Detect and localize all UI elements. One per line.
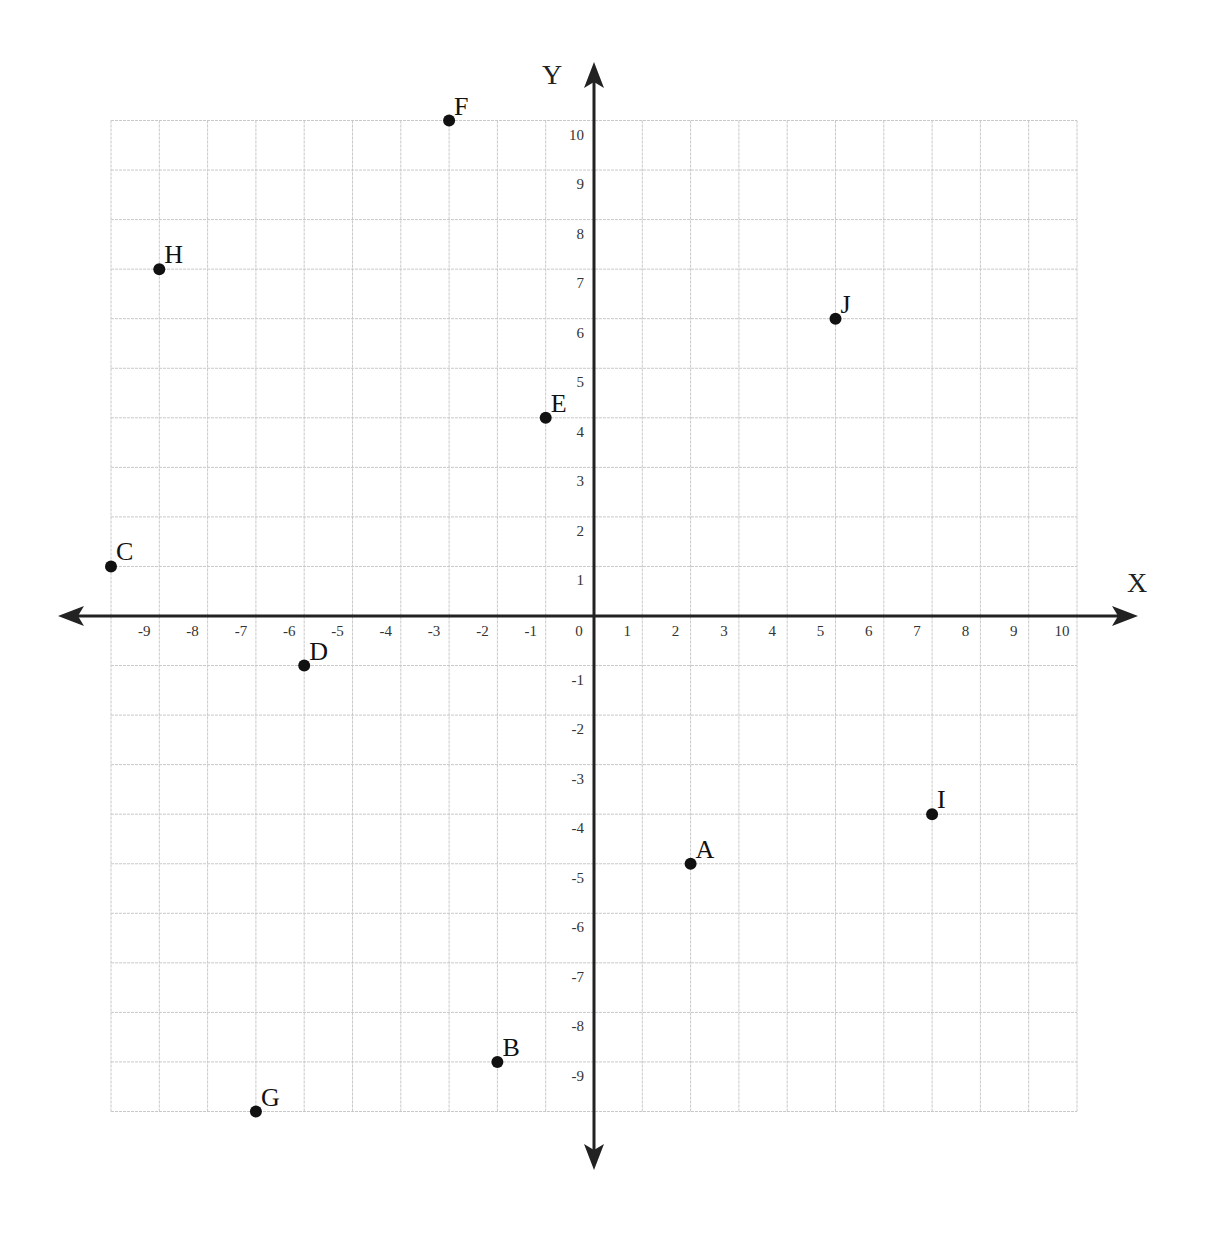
data-points: ABCDEFGHIJ	[105, 92, 946, 1118]
x-tick-label: 2	[672, 623, 680, 639]
x-tick-label: 3	[720, 623, 728, 639]
x-tick-label: -7	[235, 623, 248, 639]
y-axis-label: Y	[542, 59, 562, 90]
y-tick-label: -2	[572, 721, 585, 737]
y-tick-label: 7	[577, 275, 585, 291]
y-tick-label: 1	[577, 572, 585, 588]
y-tick-label: -4	[572, 820, 585, 836]
y-tick-label: 4	[577, 424, 585, 440]
coordinate-plane: X Y -9-8-7-6-5-4-3-2-1012345678910109876…	[0, 0, 1209, 1242]
y-tick-label: 9	[577, 176, 585, 192]
data-point-e: E	[540, 389, 567, 424]
data-point-a: A	[685, 835, 715, 870]
x-tick-label: -6	[283, 623, 296, 639]
x-tick-label: 7	[913, 623, 921, 639]
data-point-b: B	[491, 1033, 519, 1068]
x-tick-label: -3	[428, 623, 441, 639]
point-label: H	[164, 240, 183, 269]
point-label: D	[309, 637, 328, 666]
point-label: F	[454, 92, 468, 121]
y-tick-label: -3	[572, 771, 585, 787]
y-tick-label: -8	[572, 1018, 585, 1034]
y-tick-label: 10	[569, 127, 584, 143]
point-label: B	[502, 1033, 519, 1062]
tick-labels: -9-8-7-6-5-4-3-2-10123456789101098765432…	[138, 127, 1069, 1084]
data-point-i: I	[926, 785, 946, 820]
data-point-c: C	[105, 537, 133, 572]
x-tick-label: 1	[624, 623, 632, 639]
x-tick-label: -1	[524, 623, 537, 639]
point-label: I	[937, 785, 946, 814]
x-tick-label: 0	[575, 623, 583, 639]
x-tick-label: 6	[865, 623, 873, 639]
x-tick-label: 10	[1055, 623, 1070, 639]
point-label: G	[261, 1083, 280, 1112]
x-tick-label: -2	[476, 623, 489, 639]
point-label: J	[841, 290, 851, 319]
point-label: E	[551, 389, 567, 418]
x-tick-label: 8	[962, 623, 970, 639]
y-tick-label: 2	[577, 523, 585, 539]
data-point-g: G	[250, 1083, 280, 1118]
x-tick-label: 9	[1010, 623, 1018, 639]
x-axis-label: X	[1127, 567, 1147, 598]
y-tick-label: 6	[577, 325, 585, 341]
y-tick-label: -9	[572, 1068, 585, 1084]
y-tick-label: -5	[572, 870, 585, 886]
point-label: C	[116, 537, 133, 566]
data-point-j: J	[830, 290, 851, 325]
y-tick-label: 8	[577, 226, 585, 242]
x-tick-label: -9	[138, 623, 151, 639]
x-tick-label: -5	[331, 623, 344, 639]
data-point-h: H	[153, 240, 183, 275]
data-point-f: F	[443, 92, 468, 127]
x-tick-label: 4	[768, 623, 776, 639]
point-label: A	[696, 835, 715, 864]
x-tick-label: -8	[186, 623, 199, 639]
axes: X Y	[58, 59, 1147, 1170]
y-tick-label: 5	[577, 374, 585, 390]
y-tick-label: -6	[572, 919, 585, 935]
x-tick-label: 5	[817, 623, 825, 639]
y-tick-label: 3	[577, 473, 585, 489]
y-tick-label: -1	[572, 672, 585, 688]
y-tick-label: -7	[572, 969, 585, 985]
data-point-d: D	[298, 637, 328, 672]
x-tick-label: -4	[380, 623, 393, 639]
